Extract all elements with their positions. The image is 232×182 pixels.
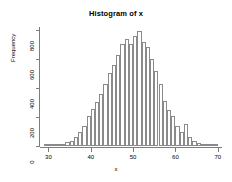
- histogram-figure: Histogram of x Frequency x 0200400600800…: [0, 0, 232, 182]
- x-axis-tick: [48, 147, 49, 152]
- y-axis: [36, 27, 40, 146]
- histogram-bars: [40, 27, 222, 146]
- x-axis-tick: [175, 147, 176, 152]
- x-axis-tick-label: 70: [214, 154, 221, 160]
- x-axis-tick-label: 60: [172, 154, 179, 160]
- y-axis-tick-label: 0: [29, 146, 35, 178]
- chart-title: Histogram of x: [0, 9, 232, 18]
- y-axis-tick-label: 600: [29, 59, 35, 91]
- y-axis-tick: [36, 117, 40, 118]
- y-axis-tick-label: 200: [29, 117, 35, 149]
- x-axis-tick-label: 40: [87, 154, 94, 160]
- y-axis-tick-label: 400: [29, 88, 35, 120]
- y-axis-tick: [36, 59, 40, 60]
- histogram-bar: [214, 144, 218, 146]
- y-axis-label: Frequency: [10, 2, 16, 62]
- x-axis-tick: [218, 147, 219, 152]
- x-axis-tick: [91, 147, 92, 152]
- x-axis-tick-label: 50: [130, 154, 137, 160]
- x-axis-line: [40, 147, 222, 148]
- plot-area: [40, 27, 222, 146]
- x-axis-tick: [133, 147, 134, 152]
- y-axis-tick: [36, 30, 40, 31]
- x-axis: [40, 147, 222, 152]
- y-axis-line: [39, 27, 40, 146]
- y-axis-tick: [36, 88, 40, 89]
- x-axis-tick-label: 30: [45, 154, 52, 160]
- y-axis-tick-label: 800: [29, 30, 35, 62]
